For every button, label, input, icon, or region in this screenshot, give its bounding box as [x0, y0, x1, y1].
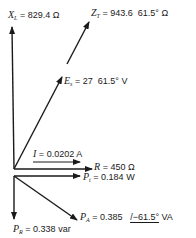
xl-subscript: L — [14, 15, 17, 21]
pr-subscript: R — [19, 229, 23, 235]
es-label: Es = 27 61.5° V — [64, 76, 127, 89]
pa-unit: VA — [162, 212, 173, 222]
pa-value: 0.385 — [100, 212, 123, 222]
i-eq: = — [39, 149, 44, 159]
es-eq: = — [75, 76, 80, 86]
xl-unit: Ω — [53, 10, 60, 20]
pr-eq: = — [25, 224, 30, 234]
pr-label: PR = 0.338 var — [13, 224, 71, 237]
zt-phasor-arrow — [67, 22, 89, 64]
r-eq: = — [103, 162, 108, 172]
pt-unit: W — [126, 172, 135, 182]
zt-label: ZT = 943.6 61.5° Ω — [91, 8, 168, 21]
xl-value: 829.4 — [28, 10, 51, 20]
pa-subscript: A — [86, 217, 90, 223]
zt-value: 943.6 — [110, 8, 133, 18]
es-subscript: s — [70, 81, 72, 87]
es-unit: V — [121, 76, 127, 86]
zt-unit: Ω — [161, 8, 168, 18]
i-symbol: I — [33, 148, 36, 159]
pa-eq: = — [92, 212, 97, 222]
r-label: R = 450 Ω — [94, 162, 135, 172]
i-value: 0.0202 — [47, 149, 75, 159]
r-symbol: R — [94, 161, 100, 172]
pa-phasor-arrow — [14, 176, 77, 220]
phasor-diagram-canvas — [0, 0, 196, 238]
zt-subscript: T — [97, 13, 100, 19]
pt-subscript: t — [89, 177, 91, 183]
es-value: 27 — [83, 76, 93, 86]
es-angle: 61.5° — [98, 76, 119, 86]
i-unit: A — [76, 149, 82, 159]
xl-label: XL = 829.4 Ω — [8, 10, 60, 23]
zt-angle: 61.5° — [138, 8, 159, 18]
pa-angle: /−61.5° — [130, 212, 159, 223]
pr-value: 0.338 — [33, 224, 56, 234]
pt-value: 0.184 — [101, 172, 124, 182]
zt-eq: = — [102, 8, 107, 18]
pt-label: Pt = 0.184 W — [83, 172, 135, 185]
r-unit: Ω — [128, 162, 135, 172]
xl-phasor-arrow — [12, 27, 14, 169]
xl-eq: = — [20, 10, 25, 20]
i-label: I = 0.0202 A — [33, 149, 82, 159]
pt-eq: = — [93, 172, 98, 182]
pa-label: PA = 0.385 /−61.5° VA — [80, 212, 173, 225]
pr-unit: var — [58, 224, 71, 234]
r-value: 450 — [110, 162, 125, 172]
